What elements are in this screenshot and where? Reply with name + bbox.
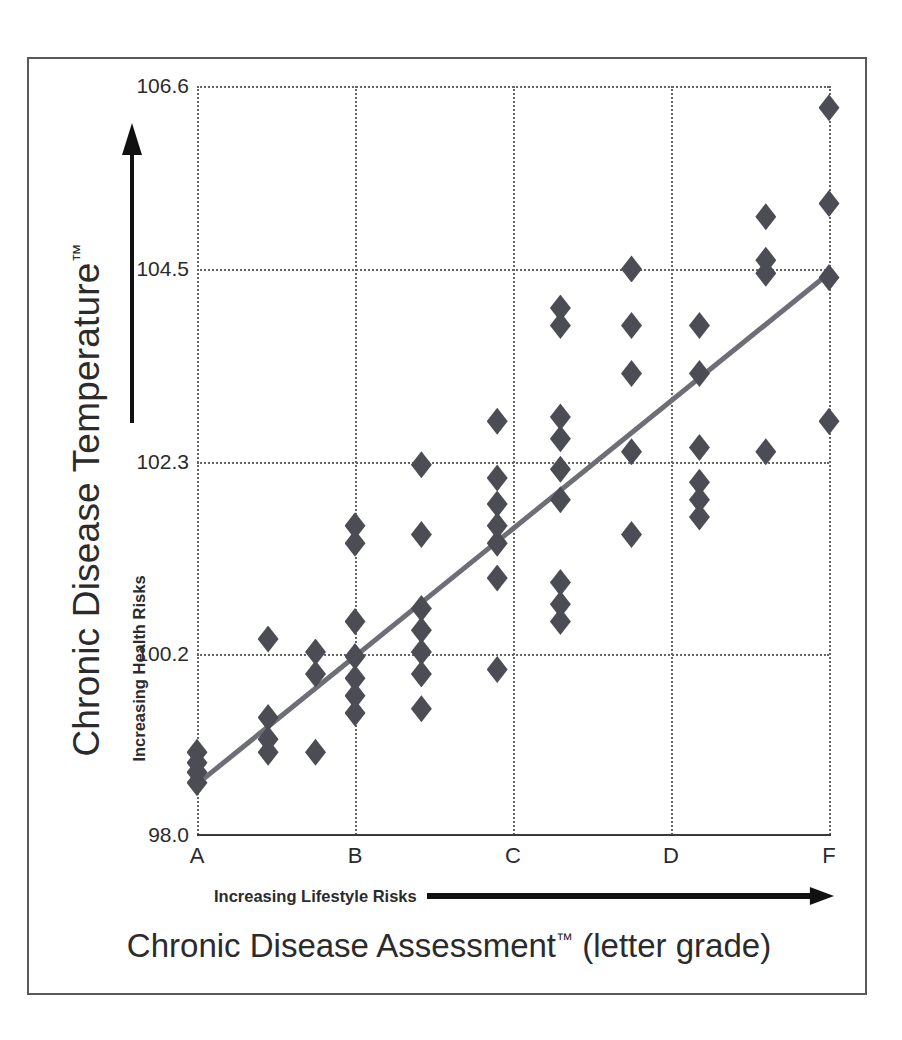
scatter-point — [411, 695, 432, 722]
scatter-point — [487, 530, 508, 557]
scatter-point — [550, 486, 571, 513]
scatter-point — [411, 521, 432, 548]
x-axis-title-text: Chronic Disease Assessment™ (letter grad… — [127, 927, 771, 964]
x-axis-sub-label: Increasing Lifestyle Risks — [214, 887, 417, 906]
gridline-vertical — [513, 86, 515, 835]
scatter-point — [487, 565, 508, 592]
x-axis-title: Chronic Disease Assessment™ (letter grad… — [29, 927, 869, 965]
trademark-symbol: ™ — [69, 243, 90, 262]
x-tick-label-b: B — [335, 843, 375, 869]
chart-figure: Chronic Disease Temperature™ Increasing … — [27, 57, 867, 995]
scatter-point — [305, 739, 326, 766]
y-tick-labels: 106.6 104.5 102.3 100.2 98.0 — [107, 86, 189, 835]
scatter-point — [621, 360, 642, 387]
scatter-point — [689, 360, 710, 387]
scatter-point — [819, 408, 840, 435]
scatter-point — [819, 190, 840, 217]
trademark-symbol: ™ — [556, 930, 573, 949]
scatter-point — [487, 656, 508, 683]
scatter-point — [621, 521, 642, 548]
x-tick-label-c: C — [493, 843, 533, 869]
scatter-point — [689, 504, 710, 531]
x-tick-labels: A B C D F — [197, 843, 829, 875]
scatter-point — [411, 660, 432, 687]
plot-area — [197, 86, 829, 835]
y-axis-title: Chronic Disease Temperature™ — [66, 150, 108, 850]
scatter-point — [621, 255, 642, 282]
gridline-vertical — [197, 86, 199, 835]
y-tick-label: 104.5 — [109, 257, 189, 281]
scatter-point — [487, 464, 508, 491]
x-tick-label-a: A — [177, 843, 217, 869]
scatter-point — [550, 608, 571, 635]
scatter-point — [550, 425, 571, 452]
y-tick-label: 102.3 — [109, 450, 189, 474]
scatter-point — [345, 530, 366, 557]
scatter-point — [550, 456, 571, 483]
scatter-point — [689, 434, 710, 461]
scatter-point — [689, 312, 710, 339]
scatter-point — [258, 626, 279, 653]
scatter-point — [621, 312, 642, 339]
x-axis-sub-label-group: Increasing Lifestyle Risks — [214, 881, 834, 911]
scatter-point — [305, 660, 326, 687]
scatter-point — [345, 608, 366, 635]
scatter-point — [755, 203, 776, 230]
x-tick-label-d: D — [651, 843, 691, 869]
y-tick-label: 106.6 — [109, 74, 189, 98]
scatter-point — [411, 451, 432, 478]
scatter-point — [550, 312, 571, 339]
scatter-point — [819, 94, 840, 121]
x-axis-line — [197, 834, 831, 836]
scatter-point — [487, 408, 508, 435]
scatter-point — [345, 700, 366, 727]
y-axis-title-text: Chronic Disease Temperature™ — [66, 243, 107, 756]
x-tick-label-f: F — [809, 843, 849, 869]
gridline-vertical — [671, 86, 673, 835]
y-tick-label: 100.2 — [109, 642, 189, 666]
increasing-lifestyle-risks-arrow-icon — [427, 885, 834, 907]
